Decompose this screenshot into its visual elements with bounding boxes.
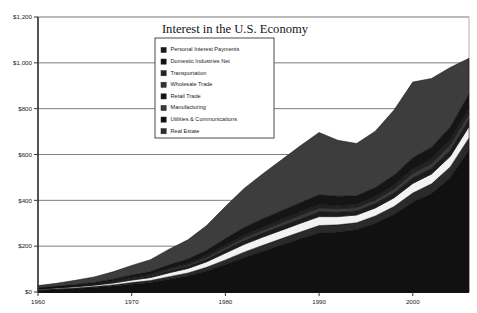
legend-swatch-utilities-communications [161, 117, 166, 122]
chart-legend: Personal Interest PaymentsDomestic Indus… [155, 38, 274, 138]
chart-canvas: $0$200$400$600$800$1,000$1,200 196019701… [0, 0, 477, 313]
y-tick-label-600: $600 [18, 151, 32, 158]
x-tick-label-2000: 2000 [406, 298, 420, 305]
y-tick-label-1200: $1,200 [13, 13, 32, 20]
x-tick-label-1990: 1990 [312, 298, 326, 305]
y-tick-label-800: $800 [18, 105, 32, 112]
legend-swatch-domestic-industries-net [161, 59, 166, 64]
legend-swatch-transportation [161, 71, 166, 76]
legend-swatch-personal-interest-payments [161, 47, 166, 52]
legend-swatch-manufacturing [161, 105, 166, 110]
legend-label-utilities-communications: Utilities & Communications [171, 116, 238, 122]
legend-label-wholesale-trade: Wholesale Trade [171, 81, 213, 87]
y-tick-label-1000: $1,000 [13, 59, 32, 66]
legend-label-transportation: Transportation [171, 70, 207, 76]
interest-us-economy-area-chart: $0$200$400$600$800$1,000$1,200 196019701… [0, 0, 477, 313]
legend-box [155, 38, 274, 138]
legend-label-personal-interest-payments: Personal Interest Payments [171, 46, 240, 52]
chart-title: Interest in the U.S. Economy [162, 22, 309, 36]
x-tick-label-1980: 1980 [219, 298, 233, 305]
legend-label-real-estate: Real Estate [171, 128, 200, 134]
y-tick-label-400: $400 [18, 197, 32, 204]
legend-label-domestic-industries-net: Domestic Industries Net [171, 58, 231, 64]
legend-label-manufacturing: Manufacturing [171, 104, 206, 110]
x-tick-label-1960: 1960 [31, 298, 45, 305]
legend-swatch-real-estate [161, 129, 166, 134]
legend-label-retail-trade: Retail Trade [171, 93, 201, 99]
x-tick-label-1970: 1970 [125, 298, 139, 305]
legend-swatch-wholesale-trade [161, 82, 166, 87]
legend-swatch-retail-trade [161, 94, 166, 99]
y-tick-label-0: $0 [25, 288, 32, 295]
y-tick-label-200: $200 [18, 242, 32, 249]
